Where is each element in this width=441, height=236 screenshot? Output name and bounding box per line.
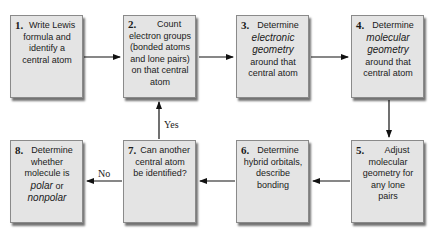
step-number: 7.	[128, 145, 136, 156]
step-emphasis: nonpolar	[28, 192, 67, 203]
step-number: 3.	[241, 20, 249, 31]
step-number: 2.	[128, 19, 136, 30]
step-5-box: 5. Adjust molecular geometry for any lon…	[351, 140, 424, 223]
step-text: any lone	[371, 180, 405, 190]
step-text: describe bonding	[256, 168, 290, 190]
step-text: formula and	[23, 32, 71, 42]
step-text: on that central	[131, 65, 188, 75]
step-text: Write Lewis	[29, 20, 75, 30]
step-2-box: 2. Count electron groups (bonded atoms a…	[123, 15, 196, 98]
step-text: or	[55, 181, 63, 191]
step-text: hybrid orbitals,	[244, 157, 303, 167]
step-text: pairs	[378, 191, 398, 201]
step-text: central atom	[248, 68, 298, 78]
step-number: 5.	[356, 145, 364, 156]
step-text: and lone pairs)	[130, 54, 190, 64]
step-text: atom	[150, 77, 170, 87]
step-text: Count	[157, 19, 181, 29]
step-text: electron groups	[129, 31, 191, 41]
step-emphasis: geometry	[367, 44, 409, 55]
step-emphasis: polar	[31, 180, 53, 191]
step-text: central atom	[135, 157, 185, 167]
yes-label: Yes	[164, 119, 179, 130]
step-text: be identified?	[133, 168, 187, 178]
step-number: 4.	[356, 20, 364, 31]
step-emphasis: geometry	[252, 44, 294, 55]
step-3-box: 3. Determine electronic geometry around …	[236, 15, 309, 98]
step-4-box: 4. Determine molecular geometry around t…	[351, 15, 424, 98]
step-text: around that	[365, 57, 411, 67]
step-text: Can another	[140, 145, 190, 155]
step-8-box: 8. Determine whether molecule is polar o…	[10, 140, 83, 223]
step-text: Determine	[372, 20, 414, 30]
step-1-box: 1. Write Lewis formula and identify a ce…	[10, 15, 83, 98]
step-text: whether	[31, 157, 63, 167]
step-text: (bonded atoms	[130, 42, 190, 52]
step-emphasis: electronic	[252, 32, 295, 43]
step-text: identify a	[29, 43, 65, 53]
step-number: 6.	[241, 145, 249, 156]
step-text: central atom	[22, 55, 72, 65]
step-text: Adjust	[385, 145, 410, 155]
step-text: geometry for	[363, 168, 414, 178]
step-7-box: 7. Can another central atom be identifie…	[123, 140, 196, 223]
step-text: Determine	[31, 145, 73, 155]
step-6-box: 6. Determine hybrid orbitals, describe b…	[236, 140, 309, 223]
step-number: 8.	[15, 145, 23, 156]
no-label: No	[98, 168, 110, 179]
step-text: around that	[250, 57, 296, 67]
step-number: 1.	[15, 20, 23, 31]
step-text: central atom	[363, 68, 413, 78]
step-text: molecular	[368, 157, 407, 167]
step-text: molecule is	[24, 168, 69, 178]
step-text: Determine	[257, 145, 299, 155]
step-text: Determine	[257, 20, 299, 30]
step-emphasis: molecular	[366, 32, 409, 43]
